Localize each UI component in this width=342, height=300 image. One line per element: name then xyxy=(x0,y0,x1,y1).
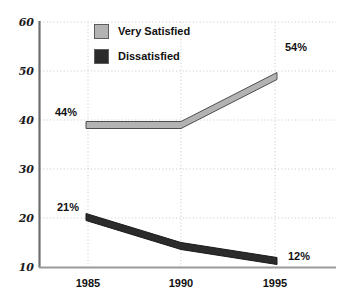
xtick-label-1995: 1995 xyxy=(252,277,298,289)
ytick-label-40: 40 xyxy=(10,115,34,126)
data-label-very-satisfied-1995: 54% xyxy=(285,41,307,53)
ytick-label-50: 50 xyxy=(10,66,34,77)
data-label-dissatisfied-1985: 21% xyxy=(57,201,79,213)
legend-label-dissatisfied: Dissatisfied xyxy=(118,50,180,62)
satisfaction-trend-chart: 60 50 40 30 20 10 1985 1990 1995 44% 54%… xyxy=(0,0,342,300)
legend-item-dissatisfied[interactable]: Dissatisfied xyxy=(94,47,180,65)
legend-item-very-satisfied[interactable]: Very Satisfied xyxy=(94,22,190,40)
xtick-label-1990: 1990 xyxy=(158,277,204,289)
ytick-label-60: 60 xyxy=(10,17,34,28)
ytick-label-10: 10 xyxy=(10,262,34,273)
data-label-dissatisfied-1995: 12% xyxy=(288,250,310,262)
chart-legend: Very Satisfied Dissatisfied xyxy=(94,22,206,68)
ytick-label-20: 20 xyxy=(10,213,34,224)
legend-swatch-dissatisfied-icon xyxy=(94,49,109,64)
legend-swatch-very-satisfied-icon xyxy=(94,24,109,39)
ytick-label-30: 30 xyxy=(10,164,34,175)
legend-label-very-satisfied: Very Satisfied xyxy=(118,25,190,37)
data-label-very-satisfied-1985: 44% xyxy=(55,106,77,118)
xtick-label-1985: 1985 xyxy=(65,277,111,289)
